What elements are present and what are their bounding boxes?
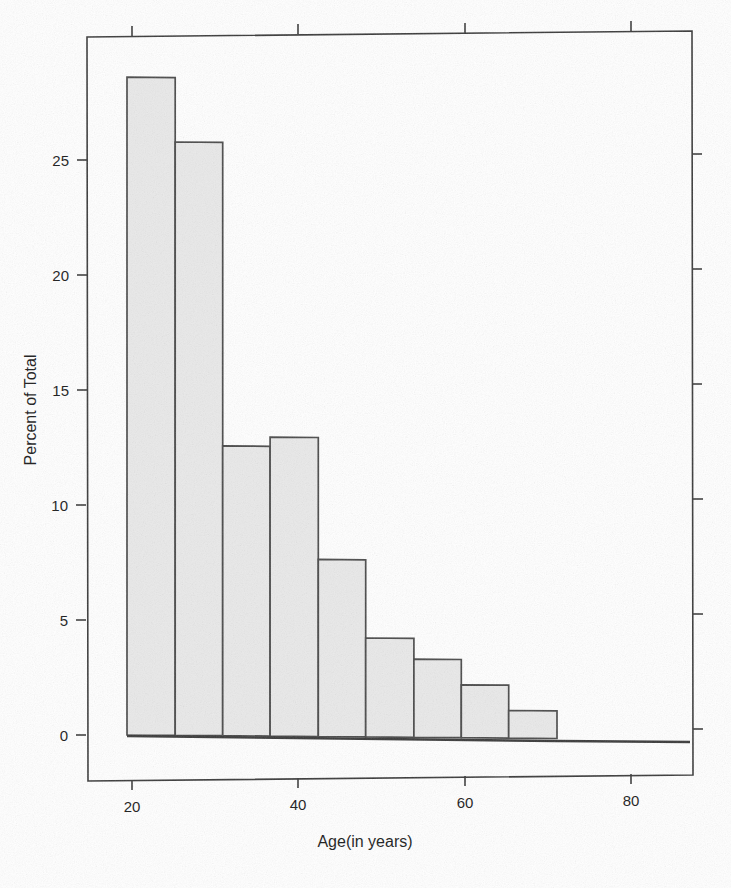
paper-grain: [0, 0, 731, 888]
chart-canvas: 0 5 10 15 20 25 20 40 60 80 Age(in years…: [0, 0, 731, 888]
histogram-figure: 0 5 10 15 20 25 20 40 60 80 Age(in years…: [0, 0, 731, 888]
